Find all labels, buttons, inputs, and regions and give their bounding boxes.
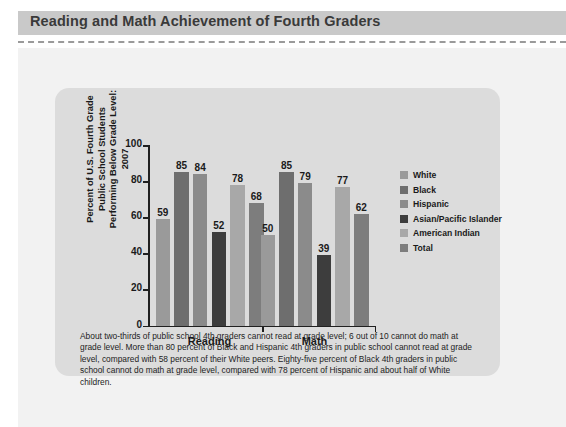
y-tick-mark: [143, 181, 148, 183]
bar-value-label: 50: [262, 223, 273, 234]
y-tick-label: 80: [131, 174, 142, 185]
y-tick-label: 60: [131, 210, 142, 221]
bar-value-label: 79: [300, 171, 311, 182]
plot-area: 020406080100 598584527868508579397762 Re…: [148, 145, 376, 327]
y-axis-title: Percent of U.S. Fourth Grade Public Scho…: [85, 84, 131, 234]
bar: 85: [279, 172, 294, 325]
bar: 39: [317, 255, 332, 325]
legend-swatch: [400, 186, 408, 194]
legend-item-total: Total: [400, 241, 500, 256]
legend-label: Total: [413, 243, 433, 253]
figure-caption: About two-thirds of public school 4th gr…: [80, 331, 480, 388]
bar: 79: [298, 183, 313, 326]
y-tick-mark: [143, 253, 148, 255]
legend-swatch: [400, 244, 408, 252]
bar-value-label: 84: [195, 162, 206, 173]
page-title: Reading and Math Achievement of Fourth G…: [30, 13, 381, 29]
bar-value-label: 77: [337, 175, 348, 186]
legend-label: White: [413, 170, 436, 180]
bar: 78: [230, 185, 245, 326]
legend-label: American Indian: [413, 228, 480, 238]
y-tick-mark: [143, 217, 148, 219]
bar: 62: [354, 214, 369, 326]
bar-value-label: 85: [281, 160, 292, 171]
bar: 59: [156, 219, 171, 325]
bar: 77: [335, 187, 350, 326]
legend-label: Black: [413, 185, 436, 195]
legend-label: Asian/Pacific Islander: [413, 214, 502, 224]
bar: 85: [174, 172, 189, 325]
legend-swatch: [400, 200, 408, 208]
bar-value-label: 68: [251, 191, 262, 202]
bar-chart: Percent of U.S. Fourth Grade Public Scho…: [55, 88, 500, 328]
legend-item-white: White: [400, 168, 500, 183]
legend-item-black: Black: [400, 183, 500, 198]
page-body: Percent of U.S. Fourth Grade Public Scho…: [18, 48, 566, 427]
y-tick-label: 100: [125, 138, 142, 149]
y-axis-line: [148, 145, 150, 327]
legend-item-hispanic: Hispanic: [400, 197, 500, 212]
dashed-divider: [18, 41, 566, 43]
bar-value-label: 39: [318, 243, 329, 254]
legend-label: Hispanic: [413, 199, 449, 209]
bar-value-label: 59: [157, 207, 168, 218]
y-tick-label: 20: [131, 282, 142, 293]
bar-value-label: 78: [232, 173, 243, 184]
bar-value-label: 52: [213, 220, 224, 231]
legend-swatch: [400, 229, 408, 237]
bar: 52: [212, 232, 227, 326]
chart-legend: WhiteBlackHispanicAsian/Pacific Islander…: [400, 168, 500, 255]
y-tick-mark: [143, 289, 148, 291]
bar: 84: [193, 174, 208, 326]
y-tick-label: 40: [131, 246, 142, 257]
bar: 50: [261, 235, 276, 325]
bar-value-label: 85: [176, 160, 187, 171]
legend-item-american-indian: American Indian: [400, 226, 500, 241]
legend-item-asian-pacific-islander: Asian/Pacific Islander: [400, 212, 500, 227]
y-tick-label: 0: [136, 319, 142, 330]
legend-swatch: [400, 215, 408, 223]
bar-value-label: 62: [356, 202, 367, 213]
y-tick-mark: [143, 326, 148, 328]
legend-swatch: [400, 171, 408, 179]
y-tick-mark: [143, 145, 148, 147]
figure-card: Percent of U.S. Fourth Grade Public Scho…: [55, 88, 500, 376]
